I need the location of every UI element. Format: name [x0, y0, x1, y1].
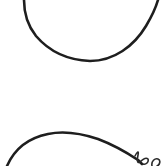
sketch-drawing [0, 0, 163, 166]
sketch-canvas [0, 0, 163, 166]
lower-arch-curve [7, 133, 142, 166]
upper-u-curve [24, 0, 158, 61]
